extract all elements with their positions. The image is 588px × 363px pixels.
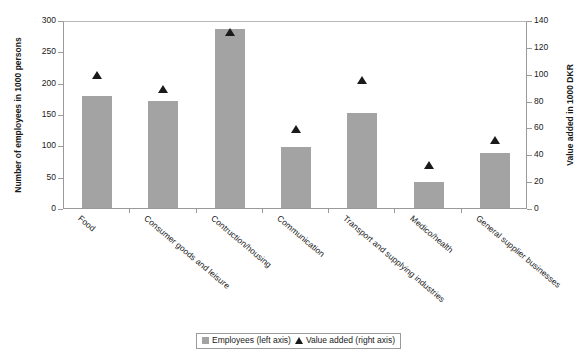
right-tick-mark-20: [527, 182, 532, 183]
right-tick-label-0: 0: [534, 204, 539, 213]
right-tick-mark-0: [527, 209, 532, 210]
x-label-2: Contruction/housing: [209, 214, 272, 269]
value-marker-1: [158, 85, 168, 93]
left-axis-title: Number of employees in 1000 persons: [14, 37, 23, 192]
right-tick-label-40: 40: [534, 150, 543, 159]
x-tick-mark-1: [129, 209, 130, 213]
value-marker-0: [92, 71, 102, 79]
right-tick-mark-60: [527, 128, 532, 129]
right-tick-label-120: 120: [534, 43, 548, 52]
right-tick-mark-40: [527, 155, 532, 156]
x-label-3: Communication: [276, 214, 327, 258]
right-tick-label-20: 20: [534, 177, 543, 186]
legend-label-employees: Employees (left axis): [212, 336, 291, 345]
right-tick-label-140: 140: [534, 16, 548, 25]
right-tick-mark-80: [527, 102, 532, 103]
x-label-6: General supplier businesses: [474, 214, 562, 289]
left-tick-mark-0: [58, 209, 63, 210]
right-axis-title: Value added in 1000 DKR: [566, 64, 575, 166]
right-tick-label-80: 80: [534, 97, 543, 106]
x-tick-mark-4: [328, 209, 329, 213]
plot-area: [63, 21, 527, 209]
x-tick-mark-6: [461, 209, 462, 213]
legend-label-value-added: Value added (right axis): [306, 336, 395, 345]
x-tick-mark-5: [394, 209, 395, 213]
x-label-0: Food: [77, 214, 97, 233]
right-tick-mark-120: [527, 48, 532, 49]
value-marker-4: [357, 76, 367, 84]
value-marker-2: [225, 28, 235, 36]
value-marker-5: [424, 161, 434, 169]
value-marker-3: [291, 125, 301, 133]
left-tick-label-150: 150: [42, 110, 56, 119]
left-tick-label-200: 200: [42, 79, 56, 88]
x-tick-mark-3: [262, 209, 263, 213]
left-tick-label-100: 100: [42, 141, 56, 150]
value-marker-6: [490, 136, 500, 144]
x-tick-mark-2: [196, 209, 197, 213]
right-tick-mark-100: [527, 75, 532, 76]
chart-legend: Employees (left axis) Value added (right…: [196, 333, 401, 349]
left-tick-label-0: 0: [51, 204, 56, 213]
legend-item-value-added: Value added (right axis): [295, 336, 395, 345]
markers-layer: [64, 22, 526, 208]
square-swatch-icon: [202, 337, 209, 344]
right-tick-mark-140: [527, 21, 532, 22]
left-tick-label-50: 50: [47, 173, 56, 182]
triangle-up-icon: [295, 337, 303, 344]
left-tick-label-300: 300: [42, 16, 56, 25]
right-tick-label-100: 100: [534, 70, 548, 79]
chart-container: Number of employees in 1000 persons Valu…: [0, 0, 588, 363]
legend-item-employees: Employees (left axis): [202, 336, 291, 345]
left-tick-label-250: 250: [42, 47, 56, 56]
x-label-5: Medico/health: [408, 214, 454, 255]
right-tick-label-60: 60: [534, 123, 543, 132]
